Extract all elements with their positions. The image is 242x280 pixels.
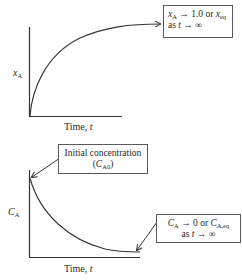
bottom-y-axis-label: CA — [8, 206, 19, 217]
top-plot-curve — [30, 24, 160, 116]
final-annotation-line1: CA → 0 or CA,eq — [157, 218, 240, 229]
final-annotation-line2: as t → ∞ — [157, 229, 240, 240]
initial-concentration-box: Initial concentration (CA0) — [58, 144, 148, 174]
final-arrow — [137, 222, 157, 250]
final-concentration-box: CA → 0 or CA,eq as t → ∞ — [156, 214, 241, 243]
bottom-plot-curve — [30, 178, 140, 252]
bottom-x-axis-label: Time, t — [64, 263, 93, 274]
bottom-plot-axes — [29, 170, 140, 258]
initial-arrow — [32, 158, 60, 177]
top-x-axis-label: Time, t — [64, 121, 93, 132]
top-annotation-line2: as t → ∞ — [168, 20, 232, 31]
top-y-axis-label: xA — [13, 67, 22, 78]
initial-annotation-line2: (CA0) — [59, 159, 147, 170]
initial-annotation-line1: Initial concentration — [59, 148, 147, 159]
top-annotation-box: xA → 1.0 or xeq as t → ∞ — [163, 5, 233, 38]
top-annotation-line1: xA → 1.0 or xeq — [168, 9, 232, 20]
